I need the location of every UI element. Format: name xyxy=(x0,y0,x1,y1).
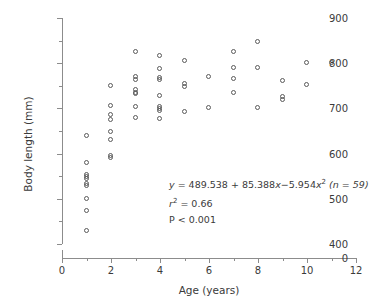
data-point xyxy=(280,78,285,83)
y-tick xyxy=(57,154,62,155)
y-tick-minor xyxy=(59,221,62,222)
data-point xyxy=(255,39,260,44)
x-tick-label: 0 xyxy=(59,265,65,276)
x-tick xyxy=(209,258,210,263)
data-point xyxy=(231,65,236,70)
y-tick-minor xyxy=(59,41,62,42)
data-point xyxy=(133,104,138,109)
x-tick-label: 12 xyxy=(350,265,363,276)
data-point xyxy=(231,76,236,81)
x-tick-minor xyxy=(136,258,137,261)
r-squared-value: = 0.66 xyxy=(177,198,212,209)
data-point xyxy=(108,83,113,88)
x-tick xyxy=(307,258,308,263)
data-point xyxy=(84,183,89,188)
equation-sample-size: (n = 59) xyxy=(326,179,369,190)
y-tick xyxy=(57,63,62,64)
y-tick-minor xyxy=(59,86,62,87)
y-tick-label: 700 xyxy=(329,103,348,114)
x-tick-label: 2 xyxy=(108,265,114,276)
data-point xyxy=(133,115,138,120)
x-tick-minor xyxy=(332,258,333,261)
data-point xyxy=(231,49,236,54)
data-point xyxy=(84,208,89,213)
y-tick-label: 900 xyxy=(329,13,348,24)
data-point xyxy=(157,116,162,121)
y-tick xyxy=(57,199,62,200)
x-axis-title: Age (years) xyxy=(62,284,356,296)
y-tick-minor xyxy=(59,176,62,177)
data-point xyxy=(329,60,334,65)
data-point xyxy=(182,58,187,63)
x-tick-minor xyxy=(234,258,235,261)
p-value-line: P < 0.001 xyxy=(169,212,369,228)
x-tick-minor xyxy=(283,258,284,261)
data-point xyxy=(108,137,113,142)
x-tick-label: 10 xyxy=(301,265,314,276)
scatter-plot-figure: 4005006007008009000 024681012 Age (years… xyxy=(0,0,376,305)
data-point xyxy=(157,77,162,82)
data-point xyxy=(84,160,89,165)
data-point xyxy=(157,108,162,113)
data-point xyxy=(84,228,89,233)
x-tick xyxy=(111,258,112,263)
data-point xyxy=(108,117,113,122)
x-tick-label: 6 xyxy=(206,265,212,276)
y-tick-label: 400 xyxy=(329,239,348,250)
data-point xyxy=(231,90,236,95)
x-tick-label: 8 xyxy=(255,265,261,276)
data-point xyxy=(255,65,260,70)
data-point xyxy=(84,133,89,138)
y-axis-title: Body length (mm) xyxy=(22,64,34,224)
x-tick xyxy=(160,258,161,263)
y-tick xyxy=(57,244,62,245)
x-tick xyxy=(62,258,63,263)
data-point xyxy=(157,93,162,98)
data-point xyxy=(206,105,211,110)
y-tick-minor xyxy=(59,131,62,132)
equation-body: = 489.538 + 85.388 xyxy=(175,179,276,190)
x-tick xyxy=(258,258,259,263)
equation-middle: −5.954 xyxy=(281,179,316,190)
data-point xyxy=(304,60,309,65)
data-point xyxy=(157,66,162,71)
y-tick xyxy=(57,108,62,109)
data-point xyxy=(206,74,211,79)
data-point xyxy=(84,196,89,201)
regression-equation: y = 489.538 + 85.388x−5.954x2 (n = 59) xyxy=(169,174,369,193)
x-tick-minor xyxy=(185,258,186,261)
y-tick xyxy=(57,18,62,19)
data-point xyxy=(255,105,260,110)
y-axis-line xyxy=(62,18,63,244)
data-point xyxy=(157,53,162,58)
data-point xyxy=(108,155,113,160)
data-point xyxy=(133,77,138,82)
data-point xyxy=(133,91,138,96)
y-axis-origin-stub xyxy=(62,250,63,258)
x-tick-minor xyxy=(87,258,88,261)
y-tick-label: 600 xyxy=(329,148,348,159)
r-squared-line: r2 = 0.66 xyxy=(169,193,369,212)
x-tick-label: 4 xyxy=(157,265,163,276)
data-point xyxy=(133,49,138,54)
data-point xyxy=(182,84,187,89)
data-point xyxy=(182,109,187,114)
regression-annotation: y = 489.538 + 85.388x−5.954x2 (n = 59) r… xyxy=(169,174,369,228)
data-point xyxy=(108,103,113,108)
data-point xyxy=(304,82,309,87)
data-point xyxy=(280,97,285,102)
x-tick xyxy=(356,258,357,263)
data-point xyxy=(108,129,113,134)
y-tick-label-zero: 0 xyxy=(342,253,348,264)
